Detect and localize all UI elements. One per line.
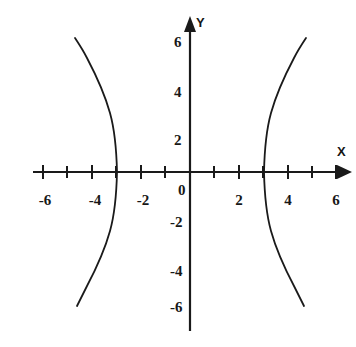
- y-axis-arrow-icon: [184, 16, 196, 32]
- x-tick-label-4: 4: [284, 193, 292, 208]
- x-tick-label-2: 2: [235, 193, 243, 208]
- x-tick-label-6: 6: [332, 193, 340, 208]
- coordinate-plane-svg: [0, 0, 356, 347]
- x-tick-label-neg4: -4: [89, 193, 102, 208]
- origin-label: 0: [178, 183, 186, 198]
- y-tick-label-neg2: -2: [170, 215, 183, 230]
- y-tick-label-2: 2: [174, 133, 182, 148]
- hyperbola-right-upper: [264, 38, 306, 172]
- y-axis-label: Y: [196, 16, 205, 29]
- hyperbola-left-upper: [75, 38, 117, 172]
- y-tick-label-neg4: -4: [170, 264, 183, 279]
- y-tick-label-neg6: -6: [170, 300, 183, 315]
- x-axis-label: X: [337, 145, 346, 158]
- graph-figure: -6 -4 -2 2 4 6 6 4 2 0 -2 -4 -6 X Y: [0, 0, 356, 347]
- x-tick-label-neg6: -6: [39, 193, 52, 208]
- y-tick-label-6: 6: [174, 35, 182, 50]
- x-axis-arrow-icon: [337, 165, 352, 179]
- y-tick-label-4: 4: [174, 85, 182, 100]
- x-tick-label-neg2: -2: [137, 193, 150, 208]
